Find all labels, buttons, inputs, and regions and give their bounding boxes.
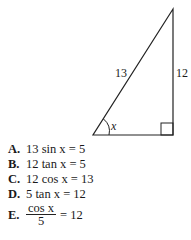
choice-a[interactable]: A. 13 sin x = 5 [8, 142, 93, 157]
choice-text: 12 tan x = 5 [26, 157, 86, 172]
angle-label: x [111, 120, 116, 132]
choice-d[interactable]: D. 5 tan x = 12 [8, 187, 93, 202]
choice-b[interactable]: B. 12 tan x = 5 [8, 157, 93, 172]
choice-letter: D. [8, 187, 26, 202]
choice-text: 5 tan x = 12 [26, 187, 86, 202]
choice-e[interactable]: E. cos x 5 = 12 [8, 202, 93, 228]
hypotenuse-label: 13 [115, 67, 127, 79]
fraction: cos x 5 [26, 203, 56, 227]
choice-text: 12 cos x = 13 [26, 172, 93, 187]
choice-letter: E. [8, 208, 26, 223]
triangle-figure: 13 12 x [0, 0, 191, 140]
choice-c[interactable]: C. 12 cos x = 13 [8, 172, 93, 187]
choice-text: 13 sin x = 5 [26, 142, 85, 157]
answer-choices: A. 13 sin x = 5 B. 12 tan x = 5 C. 12 co… [8, 142, 93, 228]
triangle-diagram [0, 0, 191, 140]
vertical-side-label: 12 [176, 67, 188, 79]
angle-arc [104, 119, 110, 135]
choice-letter: A. [8, 142, 26, 157]
choice-letter: C. [8, 172, 26, 187]
choice-letter: B. [8, 157, 26, 172]
choice-rhs: = 12 [60, 208, 83, 223]
fraction-denominator: 5 [38, 215, 44, 227]
right-angle-marker [161, 123, 173, 135]
